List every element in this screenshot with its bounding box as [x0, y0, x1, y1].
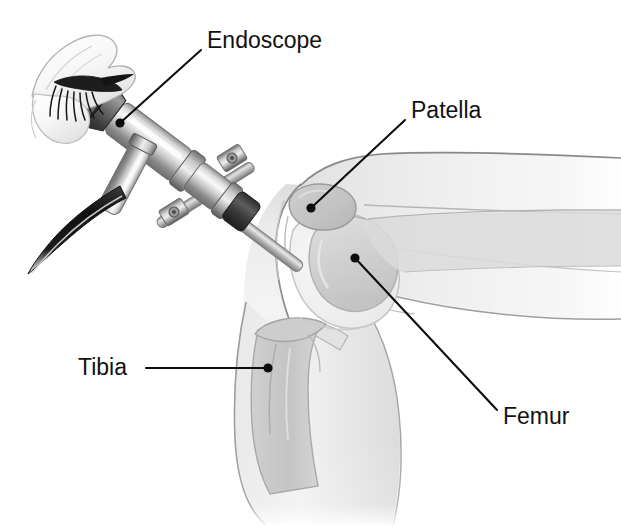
anatomy-group [232, 152, 621, 529]
knee-arthroscopy-figure: Endoscope Patella Tibia Femur [0, 0, 621, 529]
leader-dot-femur [350, 253, 359, 262]
label-endoscope-group: Endoscope [115, 27, 322, 128]
leader-dot-endoscope [115, 118, 124, 127]
femur-shaft [362, 211, 621, 272]
leader-dot-tibia [263, 363, 272, 372]
label-endoscope: Endoscope [207, 27, 322, 53]
illustration-canvas: Endoscope Patella Tibia Femur [0, 0, 621, 529]
leader-endoscope [120, 50, 201, 123]
label-patella: Patella [411, 97, 482, 123]
label-tibia: Tibia [78, 354, 127, 380]
label-femur: Femur [503, 403, 570, 429]
leader-dot-patella [306, 203, 315, 212]
